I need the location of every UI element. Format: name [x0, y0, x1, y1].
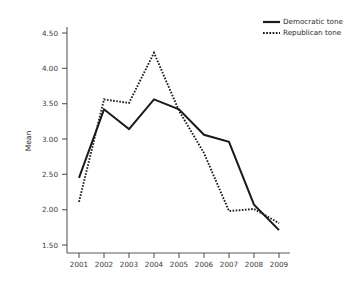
series-line-democratic-tone [79, 99, 279, 230]
y-axis-ticks [62, 33, 67, 245]
y-tick-label-5: 4.00 [42, 64, 58, 73]
x-tick-label-0: 2001 [70, 260, 88, 269]
x-axis-tick-labels: 2001 2002 2003 2004 2005 2006 2007 2008 … [70, 260, 289, 269]
chart-figure: 4.50 4.00 3.50 3.00 2.50 2.00 1.50 Mean [0, 0, 360, 286]
y-tick-label-3: 3.00 [42, 135, 58, 144]
y-tick-label-0: 1.50 [42, 241, 58, 250]
x-tick-label-5: 2006 [195, 260, 214, 269]
x-axis-group: 2001 2002 2003 2004 2005 2006 2007 2008 … [67, 253, 290, 269]
x-tick-label-2: 2003 [120, 260, 138, 269]
x-tick-label-6: 2007 [220, 260, 238, 269]
y-tick-label-4: 3.50 [42, 99, 58, 108]
plot-series-group [79, 53, 279, 230]
x-tick-label-8: 2009 [270, 260, 289, 269]
legend: Democratic tone Republican tone [263, 17, 343, 37]
y-axis-tick-labels: 4.50 4.00 3.50 3.00 2.50 2.00 1.50 [42, 29, 58, 250]
x-tick-label-1: 2002 [95, 260, 113, 269]
x-tick-label-7: 2008 [245, 260, 264, 269]
y-tick-label-1: 2.00 [42, 205, 58, 214]
x-axis-ticks [79, 253, 279, 258]
x-tick-label-3: 2004 [145, 260, 164, 269]
x-tick-label-4: 2005 [170, 260, 188, 269]
y-tick-label-6: 4.50 [42, 29, 58, 38]
y-axis-title: Mean [24, 130, 33, 151]
legend-label-republican-tone: Republican tone [283, 28, 342, 37]
line-chart-canvas: 4.50 4.00 3.50 3.00 2.50 2.00 1.50 Mean [0, 0, 360, 286]
series-line-republican-tone [79, 53, 279, 223]
y-tick-label-2: 2.50 [42, 170, 58, 179]
legend-label-democratic-tone: Democratic tone [283, 17, 343, 26]
y-axis-group: 4.50 4.00 3.50 3.00 2.50 2.00 1.50 Mean [24, 27, 67, 253]
